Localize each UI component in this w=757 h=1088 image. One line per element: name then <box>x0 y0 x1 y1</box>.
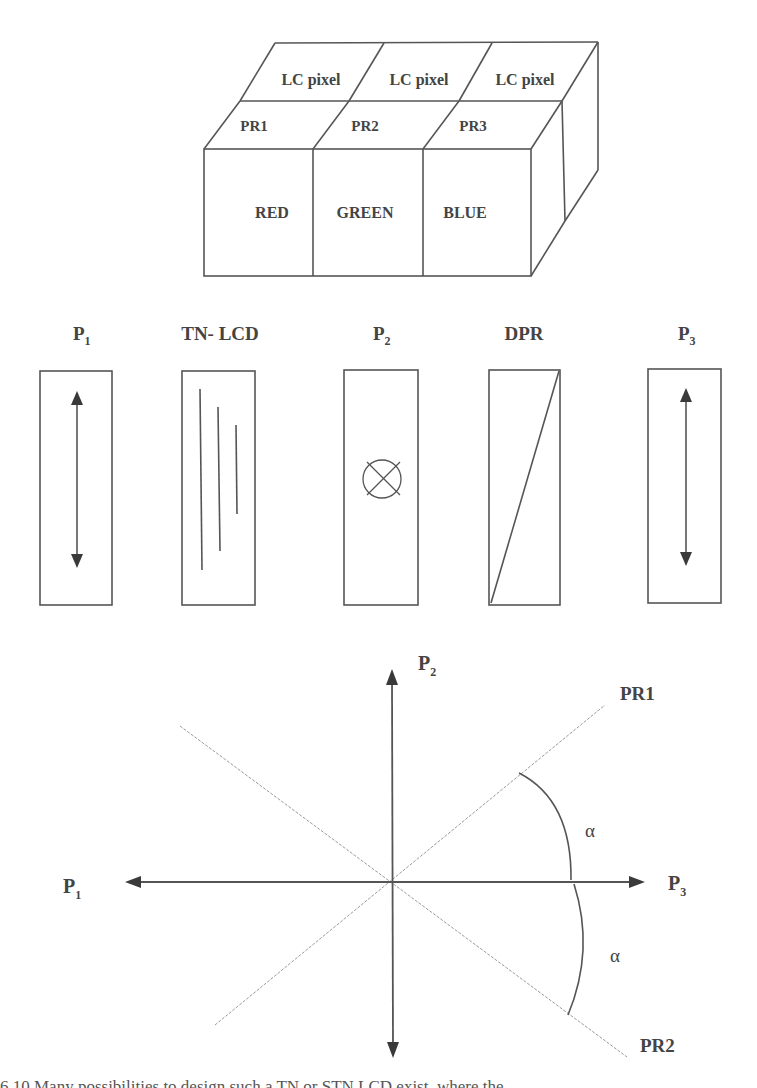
lcd-pixel-polarizer-diagram: LC pixel LC pixel LC pixel PR1 PR2 PR3 R… <box>0 0 757 1088</box>
blue-label: BLUE <box>443 204 487 221</box>
arrow-right-icon <box>629 876 645 888</box>
polarization-axis-diagram: P2 P1 P3 PR1 PR2 α α <box>63 652 686 1058</box>
p2-component-label: P2 <box>373 323 391 348</box>
p2-polarizer-plate <box>344 370 418 605</box>
figure-caption: 6.10 Many possibilities to design such a… <box>0 1072 757 1088</box>
lc-pixel-label-1: LC pixel <box>281 71 341 89</box>
p3-polarizer-plate <box>648 369 721 603</box>
lc-pixel-label-2: LC pixel <box>389 71 449 89</box>
double-arrow-icon <box>680 388 692 566</box>
into-page-cross-circle-icon <box>363 460 401 498</box>
p1-plate-outline <box>40 371 112 605</box>
dpr-component-label: DPR <box>504 323 543 344</box>
p3-component-label: P3 <box>678 323 696 348</box>
tn-lcd-plate <box>182 371 255 605</box>
pr-back-vertical <box>562 101 565 221</box>
lc-director-lines-icon <box>200 389 237 570</box>
pr-divider-2 <box>423 101 459 149</box>
angle-arc-upper <box>519 773 571 880</box>
p1-component-label: P1 <box>73 323 91 348</box>
lc-strip-top-edge <box>275 42 598 43</box>
alpha-lower-label: α <box>610 945 620 966</box>
pr2-axis-label: PR2 <box>640 1035 675 1056</box>
p2-axis-label: P2 <box>418 652 436 679</box>
lc-strip-right-edge <box>562 42 598 101</box>
dpr-plate <box>489 370 560 605</box>
tn-lcd-component-label: TN- LCD <box>181 323 259 344</box>
pr1-label: PR1 <box>240 118 268 134</box>
p3-axis-label: P3 <box>668 872 686 899</box>
vertical-axis <box>392 678 393 1049</box>
angle-arc-lower <box>568 884 583 1015</box>
double-arrow-icon <box>71 391 83 568</box>
arrow-down-icon <box>387 1042 399 1058</box>
green-label: GREEN <box>337 204 394 221</box>
pr-divider-1 <box>313 101 349 149</box>
pr1-axis-label: PR1 <box>620 683 655 704</box>
pr2-axis-line <box>180 726 627 1057</box>
lc-bottom-edge <box>565 170 598 221</box>
p3-plate-outline <box>648 369 721 603</box>
pr-bottom-edge <box>531 221 565 276</box>
lc-pixel-label-3: LC pixel <box>495 71 555 89</box>
pr1-axis-line <box>215 705 605 1025</box>
pr2-label: PR2 <box>351 118 379 134</box>
pr-strip-right-edge <box>531 101 562 149</box>
arrow-left-icon <box>125 876 141 888</box>
arrow-up-icon <box>386 669 398 685</box>
p2-plate-outline <box>344 370 418 605</box>
pr-strip-left-edge <box>204 101 240 149</box>
lc-strip-left-edge <box>240 43 275 101</box>
alpha-upper-label: α <box>585 820 595 841</box>
dpr-diagonal-icon <box>491 371 559 603</box>
lc-divider-2 <box>459 43 492 101</box>
lc-divider-1 <box>349 43 384 101</box>
p1-axis-label: P1 <box>63 875 81 902</box>
p1-polarizer-plate <box>40 371 112 605</box>
red-label: RED <box>255 204 289 221</box>
component-labels: P1 TN- LCD P2 DPR P3 <box>73 323 696 348</box>
pixel-cube: LC pixel LC pixel LC pixel PR1 PR2 PR3 R… <box>204 42 598 276</box>
pr3-label: PR3 <box>459 118 487 134</box>
